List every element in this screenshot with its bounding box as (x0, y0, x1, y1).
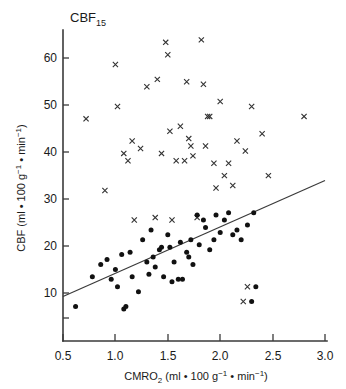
dot-marker (130, 274, 135, 279)
cross-marker (301, 114, 306, 119)
x-tick-label-1-5: 1.5 (160, 349, 177, 363)
regression-line (63, 181, 325, 297)
cross-marker (199, 37, 204, 42)
dot-marker (169, 279, 174, 284)
x-axis-tick-labels: 0.5 1.0 1.5 2.0 2.5 3.0 (55, 349, 334, 363)
y-tick-label-10: 10 (44, 286, 58, 300)
cross-marker (113, 62, 118, 67)
dot-marker (144, 260, 149, 265)
y-axis-tick-labels: 60 50 40 30 20 10 (44, 51, 58, 300)
cross-marker (153, 215, 158, 220)
cross-marker (188, 143, 193, 148)
dot-marker (165, 232, 170, 237)
dot-marker (105, 257, 110, 262)
dot-marker (245, 222, 250, 227)
dot-marker (251, 210, 256, 215)
dot-marker (151, 255, 156, 260)
cross-marker (125, 158, 130, 163)
dot-marker (113, 267, 118, 272)
x-axis-ticks (63, 334, 325, 341)
cross-marker (115, 104, 120, 109)
cross-marker (218, 99, 223, 104)
cross-marker (167, 129, 172, 134)
x-tick-label-2-0: 2.0 (212, 349, 229, 363)
x-axis-label-mid: 100 g (188, 370, 219, 382)
x-axis-label-main: CMRO (124, 370, 158, 382)
cross-marker (165, 52, 170, 57)
dot-marker (159, 245, 164, 250)
dot-marker (197, 242, 202, 247)
y-tick-label-20: 20 (44, 239, 58, 253)
dot-marker (203, 225, 208, 230)
dot-marker (123, 304, 128, 309)
cross-marker (186, 136, 191, 141)
cross-marker (178, 124, 183, 129)
plot-title-text: CBF (70, 10, 96, 25)
cross-marker (243, 148, 248, 153)
cross-marker (182, 158, 187, 163)
dot-marker (249, 299, 254, 304)
dot-marker (119, 252, 124, 257)
cross-marker (260, 131, 265, 136)
cross-marker (159, 151, 164, 156)
cross-marker (130, 138, 135, 143)
cross-marker (102, 188, 107, 193)
dot-marker (115, 284, 120, 289)
cross-marker (169, 217, 174, 222)
cross-marker (138, 146, 143, 151)
dot-marker (98, 262, 103, 267)
x-axis-label-rest: (ml (162, 370, 183, 382)
x-tick-label-0-5: 0.5 (55, 349, 72, 363)
x-axis-label-end: min (237, 370, 255, 382)
cross-marker (163, 40, 168, 45)
dot-marker (140, 237, 145, 242)
dot-marker (239, 237, 244, 242)
x-axis-label: CMRO2 (ml • 100 g−1 • min−1) (124, 369, 268, 385)
x-axis-label-bullet2: • (227, 370, 237, 382)
dot-marker (186, 255, 191, 260)
cbf-cmro2-scatter-figure: CBF15 60 50 40 30 20 10 (0, 0, 346, 389)
dot-marker (161, 274, 166, 279)
dot-marker-layer (73, 210, 258, 311)
cross-marker (201, 82, 206, 87)
dot-marker (214, 213, 219, 218)
cross-marker (222, 173, 227, 178)
cross-marker (249, 104, 254, 109)
dot-marker (184, 250, 189, 255)
dot-marker (222, 218, 227, 223)
scatter-plot-svg: CBF15 60 50 40 30 20 10 (0, 0, 346, 389)
y-axis-label-mid: 100 g (15, 174, 27, 205)
dot-marker (218, 230, 223, 235)
dot-marker (167, 245, 172, 250)
dot-marker (109, 277, 114, 282)
plot-title-subscript: 15 (96, 18, 106, 28)
dot-marker (253, 284, 258, 289)
dot-marker (90, 274, 95, 279)
cross-marker (245, 284, 250, 289)
dot-marker (226, 210, 231, 215)
x-axis-label-close: ) (264, 370, 268, 382)
dot-marker (207, 247, 212, 252)
cross-marker (234, 138, 239, 143)
dot-marker (190, 262, 195, 267)
cross-marker (226, 161, 231, 166)
x-tick-label-1-0: 1.0 (107, 349, 124, 363)
dot-marker (195, 213, 200, 218)
y-axis-label-main: CBF (ml (15, 208, 27, 251)
cross-marker (155, 77, 160, 82)
cross-marker (132, 217, 137, 222)
cross-marker (190, 153, 195, 158)
x-tick-label-3-0: 3.0 (317, 349, 334, 363)
dot-marker (172, 260, 177, 265)
dot-marker (234, 227, 239, 232)
y-axis-label-end: min (15, 137, 27, 155)
regression-line-layer (63, 181, 325, 297)
cross-marker (83, 116, 88, 121)
dot-marker (188, 237, 193, 242)
y-axis-label-bullet2: • (15, 155, 27, 165)
y-tick-label-50: 50 (44, 98, 58, 112)
dot-marker (136, 289, 141, 294)
cross-marker (144, 84, 149, 89)
cross-marker (266, 173, 271, 178)
cross-marker (213, 185, 218, 190)
